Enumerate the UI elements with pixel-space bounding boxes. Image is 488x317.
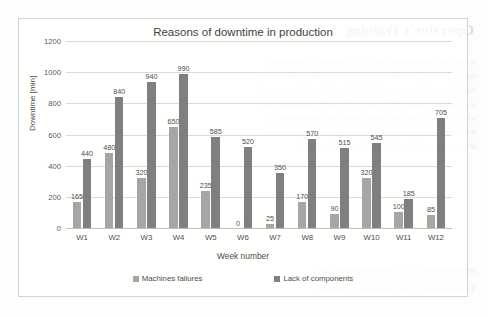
bar-value-label: 185 bbox=[403, 189, 415, 198]
bar-value-label: 320 bbox=[361, 168, 373, 177]
bar: 570 bbox=[308, 139, 317, 228]
bar-value-label: 705 bbox=[435, 108, 447, 117]
bar: 515 bbox=[340, 148, 349, 228]
bar: 520 bbox=[244, 147, 253, 228]
x-axis-tick-label: W6 bbox=[237, 233, 249, 242]
bar: 480 bbox=[105, 153, 114, 228]
bar-value-label: 100 bbox=[393, 202, 405, 211]
bar: 705 bbox=[437, 118, 446, 228]
bar: 585 bbox=[211, 137, 220, 228]
bar: 90 bbox=[330, 214, 339, 228]
bar: 840 bbox=[115, 97, 124, 228]
chart-legend: Machines failuresLack of components bbox=[19, 274, 467, 283]
bar-value-label: 545 bbox=[371, 133, 383, 142]
legend-label: Machines failures bbox=[142, 274, 203, 283]
x-axis-tick-label: W2 bbox=[108, 233, 120, 242]
y-axis-label: Downtime [min] bbox=[28, 76, 37, 131]
bar: 990 bbox=[179, 74, 188, 228]
scanned-page: Operator's Training in machine maintenan… bbox=[0, 0, 488, 317]
x-axis-tick-label: W4 bbox=[173, 233, 185, 242]
bar-group: 480840W2 bbox=[98, 41, 130, 228]
bar-group: 320545W10 bbox=[356, 41, 388, 228]
bar: 320 bbox=[137, 178, 146, 228]
legend-label: Lack of components bbox=[283, 274, 353, 283]
bar-group: 165440W1 bbox=[66, 41, 98, 228]
y-axis-tick-label: 0 bbox=[57, 224, 61, 233]
bar-value-label: 520 bbox=[242, 137, 254, 146]
bar-value-label: 515 bbox=[338, 138, 350, 147]
x-axis-tick-label: W10 bbox=[364, 233, 380, 242]
bar-value-label: 940 bbox=[145, 72, 157, 81]
x-axis-tick-label: W1 bbox=[76, 233, 88, 242]
bar-value-label: 350 bbox=[274, 163, 286, 172]
bar-value-label: 480 bbox=[103, 143, 115, 152]
x-axis-tick-label: W9 bbox=[334, 233, 346, 242]
bar-group: 650990W4 bbox=[163, 41, 195, 228]
bar: 165 bbox=[73, 202, 82, 228]
x-axis-tick-label: W7 bbox=[269, 233, 281, 242]
y-axis-tick-label: 200 bbox=[48, 192, 61, 201]
bar-value-label: 840 bbox=[113, 87, 125, 96]
bar: 25 bbox=[266, 224, 275, 228]
bar-value-label: 25 bbox=[266, 214, 274, 223]
gridline bbox=[66, 228, 452, 229]
y-axis-tick-label: 1000 bbox=[44, 68, 61, 77]
bar: 100 bbox=[394, 212, 403, 228]
bar: 940 bbox=[147, 82, 156, 228]
bar-value-label: 0 bbox=[236, 219, 240, 228]
bar: 185 bbox=[404, 199, 413, 228]
bar-value-label: 440 bbox=[81, 149, 93, 158]
chart-title: Reasons of downtime in production bbox=[19, 26, 467, 38]
bar-value-label: 650 bbox=[168, 117, 180, 126]
x-axis-tick-label: W11 bbox=[396, 233, 411, 242]
bar-group: 90515W9 bbox=[323, 41, 355, 228]
bar-value-label: 235 bbox=[200, 181, 212, 190]
bar-group: 170570W8 bbox=[291, 41, 323, 228]
bar-group: 25350W7 bbox=[259, 41, 291, 228]
bar-group: 0520W6 bbox=[227, 41, 259, 228]
chart-container: Reasons of downtime in production Downti… bbox=[18, 18, 468, 297]
bar-value-label: 320 bbox=[135, 168, 147, 177]
bar: 545 bbox=[372, 143, 381, 228]
x-axis-tick-label: W3 bbox=[141, 233, 153, 242]
bar-group: 85705W12 bbox=[420, 41, 452, 228]
x-axis-tick-label: W5 bbox=[205, 233, 217, 242]
bar-group: 100185W11 bbox=[388, 41, 420, 228]
bar: 440 bbox=[83, 159, 92, 228]
bar: 320 bbox=[362, 178, 371, 228]
bar-value-label: 90 bbox=[330, 204, 338, 213]
bar-group: 320940W3 bbox=[130, 41, 162, 228]
bar: 170 bbox=[298, 202, 307, 228]
bar-value-label: 170 bbox=[296, 192, 308, 201]
x-axis-label: Week number bbox=[19, 251, 467, 261]
y-axis-tick-label: 400 bbox=[48, 161, 61, 170]
x-axis-tick-label: W12 bbox=[428, 233, 444, 242]
legend-swatch-icon bbox=[274, 276, 280, 282]
legend-swatch-icon bbox=[133, 276, 139, 282]
legend-item[interactable]: Machines failures bbox=[133, 274, 203, 283]
bar-value-label: 570 bbox=[306, 129, 318, 138]
bar: 650 bbox=[169, 127, 178, 228]
bar-value-label: 85 bbox=[427, 205, 435, 214]
y-axis-tick-label: 800 bbox=[48, 99, 61, 108]
bar-value-label: 585 bbox=[210, 127, 222, 136]
bar: 85 bbox=[427, 215, 436, 228]
bar-value-label: 165 bbox=[71, 192, 83, 201]
y-axis-tick-label: 600 bbox=[48, 130, 61, 139]
bar-group: 235585W5 bbox=[195, 41, 227, 228]
legend-item[interactable]: Lack of components bbox=[274, 274, 353, 283]
bar: 235 bbox=[201, 191, 210, 228]
x-axis-tick-label: W8 bbox=[301, 233, 313, 242]
plot-area: 020040060080010001200 165440W1480840W232… bbox=[66, 41, 452, 228]
bar: 350 bbox=[276, 173, 285, 228]
y-axis-tick-label: 1200 bbox=[44, 37, 61, 46]
bar-value-label: 990 bbox=[178, 64, 190, 73]
